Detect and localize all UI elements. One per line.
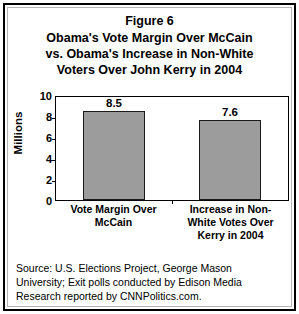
y-tick-label-6: 6 xyxy=(30,132,52,144)
y-tick-mark-2 xyxy=(52,181,56,182)
source-note-line-1: Source: U.S. Elections Project, George M… xyxy=(16,261,292,275)
y-axis-tick-labels: 0246810 xyxy=(30,96,52,201)
y-tick-label-4: 4 xyxy=(30,153,52,165)
source-note-line-2: University; Exit polls conducted by Edis… xyxy=(16,275,292,289)
y-tick-mark-6 xyxy=(52,139,56,140)
y-tick-mark-8 xyxy=(52,118,56,119)
bar-value-label-0: 8.5 xyxy=(106,97,122,109)
bar-group-0: 8.5 xyxy=(56,97,172,200)
plot-frame: 8.5 7.6 xyxy=(55,96,289,201)
y-axis-label: Millions xyxy=(12,105,24,161)
category-label-1: Increase in Non-White Votes OverKerry in… xyxy=(172,203,289,242)
bar-group-1: 7.6 xyxy=(172,97,288,200)
source-note-line-3: Research reported by CNNPolitics.com. xyxy=(16,289,292,303)
bar-value-label-1: 7.6 xyxy=(222,106,238,118)
bar-0 xyxy=(83,111,145,200)
source-note: Source: U.S. Elections Project, George M… xyxy=(16,261,292,303)
chart-title-line-2: vs. Obama's Increase in Non-White xyxy=(8,46,291,62)
chart-plot-region: Millions 0246810 8.5 7.6 xyxy=(8,96,297,214)
x-axis-category-labels: Vote Margin OverMcCain Increase in Non-W… xyxy=(55,203,289,242)
y-tick-label-10: 10 xyxy=(30,90,52,102)
chart-title: Figure 6 Obama's Vote Margin Over McCain… xyxy=(8,13,291,78)
figure-inner-frame: Figure 6 Obama's Vote Margin Over McCain… xyxy=(7,7,292,307)
category-label-0: Vote Margin OverMcCain xyxy=(55,203,172,242)
y-tick-label-2: 2 xyxy=(30,174,52,186)
figure-number: Figure 6 xyxy=(8,13,291,30)
y-tick-label-0: 0 xyxy=(30,195,52,207)
figure-outer-frame: Figure 6 Obama's Vote Margin Over McCain… xyxy=(3,3,296,311)
chart-title-line-1: Obama's Vote Margin Over McCain xyxy=(8,30,291,46)
y-tick-mark-4 xyxy=(52,160,56,161)
plot-inner: 8.5 7.6 xyxy=(56,97,288,200)
bar-1 xyxy=(199,120,261,200)
chart-title-line-3: Voters Over John Kerry in 2004 xyxy=(8,62,291,78)
y-tick-label-8: 8 xyxy=(30,111,52,123)
